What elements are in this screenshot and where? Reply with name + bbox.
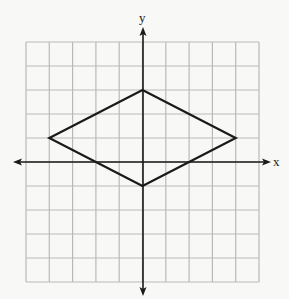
axes: x y [13, 10, 280, 296]
x-axis-label: x [273, 154, 280, 169]
y-axis-label: y [139, 10, 146, 25]
coordinate-plane: x y [0, 0, 289, 299]
